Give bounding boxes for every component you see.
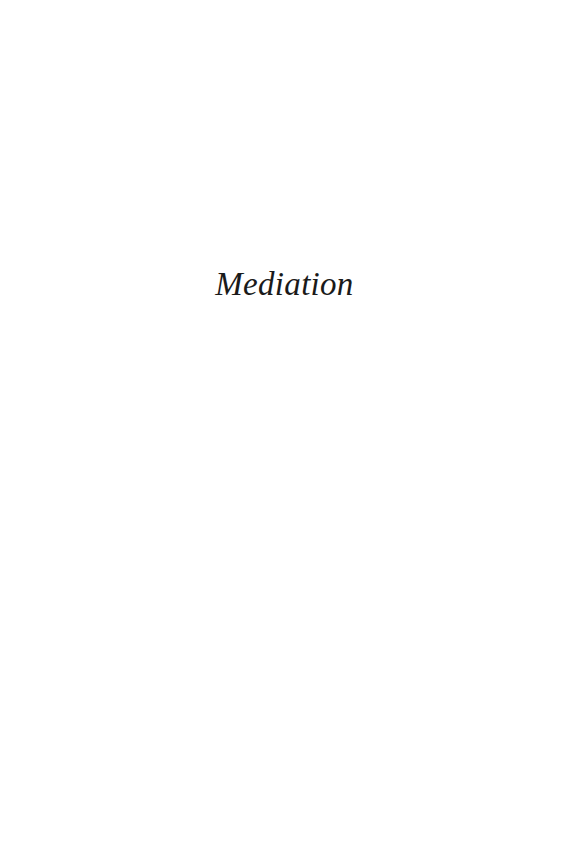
- half-title: Mediation: [0, 264, 565, 304]
- book-page: Mediation: [0, 0, 565, 852]
